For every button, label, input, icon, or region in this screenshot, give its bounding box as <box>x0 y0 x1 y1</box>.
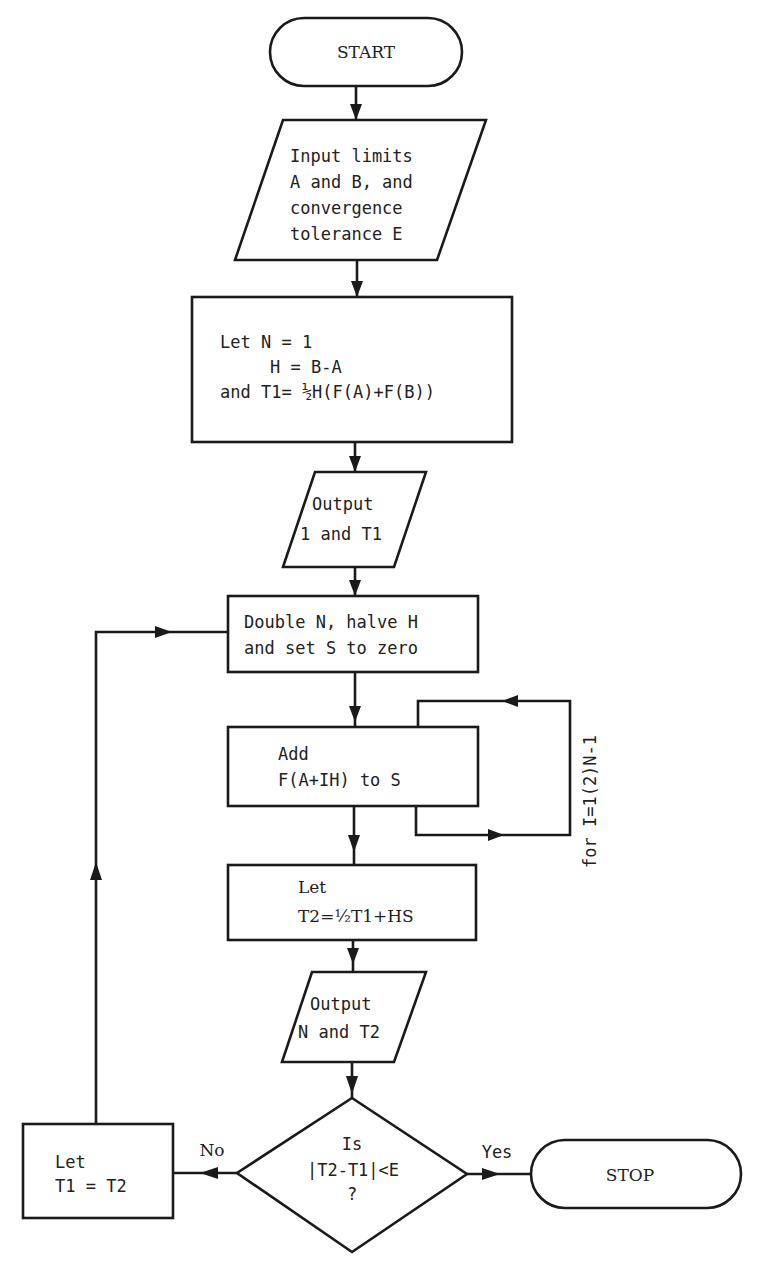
init-line-2: H = B-A <box>270 357 342 377</box>
decision-line-2: |T2-T1|<E <box>307 1160 399 1180</box>
flowchart: START Input limits A and B, and converge… <box>0 0 760 1279</box>
arrow-left-icon <box>502 695 518 707</box>
feedback-line <box>96 632 228 1124</box>
arrow-down-icon <box>349 706 361 722</box>
arrow-left-icon <box>200 1167 218 1179</box>
input-node: Input limits A and B, and convergence to… <box>235 120 486 260</box>
output2-node: Output N and T2 <box>282 972 426 1062</box>
init-shape <box>192 297 512 442</box>
output2-shape <box>282 972 426 1062</box>
input-line-1: Input limits <box>290 146 413 166</box>
output2-line-2: N and T2 <box>298 1022 380 1042</box>
edge-input-init <box>351 260 363 297</box>
decision-node: Is |T2-T1|<E ? <box>237 1098 467 1252</box>
lett2-line-1: Let <box>298 877 326 897</box>
add-shape <box>228 727 478 806</box>
arrow-up-icon <box>90 862 102 880</box>
edge-output2-decision <box>346 1062 358 1098</box>
arrow-down-icon <box>350 104 362 120</box>
arrow-down-icon <box>347 948 359 964</box>
edge-decision-yes: Yes <box>467 1142 531 1180</box>
double-line-1: Double N, halve H <box>244 612 418 632</box>
lett2-shape <box>228 865 476 940</box>
no-label: No <box>199 1140 224 1160</box>
arrow-down-icon <box>346 1076 358 1094</box>
double-shape <box>228 596 478 672</box>
input-line-2: A and B, and <box>290 172 413 192</box>
edge-add-lett2 <box>348 806 360 865</box>
decision-line-3: ? <box>347 1184 357 1204</box>
output1-line-2: 1 and T1 <box>300 524 382 544</box>
loop-label: for I=1(2)N-1 <box>580 735 600 868</box>
arrow-down-icon <box>348 835 360 852</box>
yes-label: Yes <box>482 1142 513 1162</box>
edge-start-input <box>350 86 362 120</box>
arrow-down-icon <box>349 580 361 596</box>
lett1-shape <box>23 1124 173 1218</box>
output2-line-1: Output <box>310 994 371 1014</box>
start-node: START <box>270 18 462 86</box>
input-line-4: tolerance E <box>290 224 403 244</box>
arrow-right-icon <box>155 626 172 638</box>
add-line-2: F(A+IH) to S <box>278 770 401 790</box>
edge-output1-double <box>349 567 361 596</box>
lett1-line-1: Let <box>55 1152 86 1172</box>
output1-shape <box>283 472 426 567</box>
arrow-down-icon <box>351 281 363 297</box>
edge-lett2-output2 <box>347 940 359 972</box>
lett2-node: Let T2=½T1+HS <box>228 865 476 940</box>
output1-line-1: Output <box>312 494 373 514</box>
edge-decision-no: No <box>172 1140 237 1179</box>
arrow-down-icon <box>349 456 361 472</box>
edge-init-output1 <box>349 442 361 472</box>
double-node: Double N, halve H and set S to zero <box>228 596 478 672</box>
decision-line-1: Is <box>342 1134 362 1154</box>
init-line-3: and T1= ½H(F(A)+F(B)) <box>220 382 435 402</box>
add-node: Add F(A+IH) to S <box>228 727 478 806</box>
double-line-2: and set S to zero <box>244 638 418 658</box>
lett2-line-2: T2=½T1+HS <box>298 906 414 926</box>
start-text: START <box>337 42 396 62</box>
add-line-1: Add <box>278 744 309 764</box>
stop-text: STOP <box>606 1165 654 1185</box>
output1-node: Output 1 and T1 <box>283 472 426 567</box>
init-line-1: Let N = 1 <box>220 332 312 352</box>
arrow-right-icon <box>488 829 504 841</box>
lett1-line-2: T1 = T2 <box>55 1176 127 1196</box>
edge-double-add <box>349 672 361 727</box>
edge-lett1-double <box>90 626 228 1124</box>
arrow-right-icon <box>482 1168 500 1180</box>
lett1-node: Let T1 = T2 <box>23 1124 173 1218</box>
init-node: Let N = 1 H = B-A and T1= ½H(F(A)+F(B)) <box>192 297 512 442</box>
input-line-3: convergence <box>290 198 403 218</box>
stop-node: STOP <box>531 1140 741 1208</box>
